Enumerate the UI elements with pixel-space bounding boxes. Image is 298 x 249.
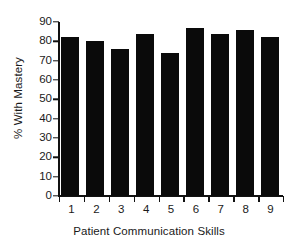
x-axis-tick-mark [208,196,209,202]
x-axis-title: Patient Communication Skills [0,225,298,237]
x-axis-tick-label: 9 [259,204,283,216]
x-axis-tick-mark [258,196,259,202]
x-axis-tick-mark [159,196,160,202]
x-axis-tick-label: 1 [59,204,83,216]
x-axis-tick-label: 4 [134,204,158,216]
bar-chart-figure: % With Mastery 0102030405060708090 12345… [0,0,298,249]
x-axis-tick-label: 8 [234,204,258,216]
x-axis-tick-mark [283,196,284,202]
x-axis-tick-label: 6 [184,204,208,216]
x-axis-tick-mark [59,196,60,202]
x-axis-tick-label: 3 [109,204,133,216]
x-axis-tick-labels: 123456789 [59,204,283,220]
x-axis-tick-mark [134,196,135,202]
x-axis-tick-mark [84,196,85,202]
x-axis-tick-label: 5 [159,204,183,216]
x-axis-tick-label: 2 [84,204,108,216]
x-axis-tick-label: 7 [209,204,233,216]
x-axis-tick-mark [109,196,110,202]
x-axis-tick-mark [183,196,184,202]
x-axis-tick-mark [233,196,234,202]
